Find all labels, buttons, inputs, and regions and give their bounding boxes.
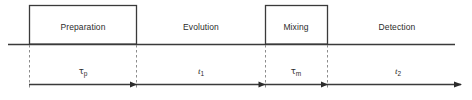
phase-label-evolution: Evolution [183, 22, 219, 32]
phase-label-detection: Detection [379, 22, 416, 32]
phase-label-preparation: Preparation [60, 22, 105, 32]
arrowhead-t-1-icon [259, 82, 266, 88]
phase-label-mixing: Mixing [283, 22, 308, 32]
interval-label-t-1: t1 [198, 66, 204, 76]
interval-label-tau-p: τp [79, 66, 88, 76]
diagram-vector-layer [0, 0, 472, 100]
arrowhead-tau-m-icon [321, 82, 328, 88]
arrowhead-tau-p-icon [130, 82, 137, 88]
t-2-subscript: 2 [397, 70, 401, 77]
t-1-subscript: 1 [200, 70, 204, 77]
arrowhead-t-2-icon [454, 81, 462, 87]
interval-label-t-2: t2 [395, 66, 401, 76]
pulse-sequence-diagram: Preparation Evolution Mixing Detection τ… [0, 0, 472, 100]
interval-label-tau-m: τm [291, 66, 302, 76]
tau-p-subscript: p [84, 70, 88, 77]
tau-m-subscript: m [296, 70, 301, 77]
